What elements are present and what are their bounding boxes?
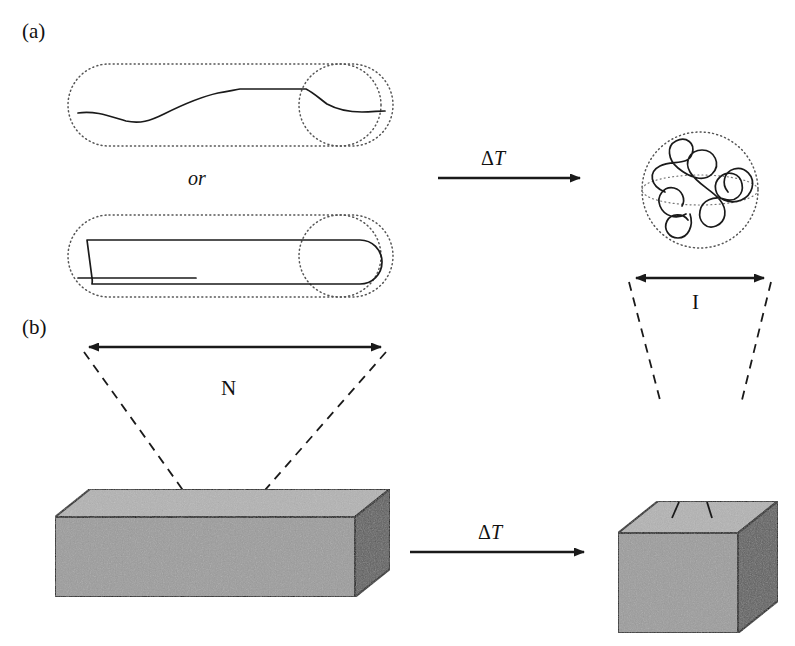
cube-front-face (618, 533, 738, 633)
panel-label-b: (b) (22, 317, 47, 338)
bar-front-face (55, 517, 355, 597)
bar-top-face (55, 489, 390, 517)
coiled-globule-sphere (642, 132, 758, 248)
dimension-label-n: N (221, 378, 236, 399)
extended-chain-capsule (68, 64, 393, 146)
or-label: or (188, 168, 206, 188)
random-coil-chain (652, 139, 752, 238)
delta-t-label-top: ΔT (481, 148, 505, 168)
extended-polymer-chain (78, 89, 385, 122)
projection-line-l-right (742, 282, 771, 400)
segment-end-circle-dotted (299, 64, 381, 146)
dimension-label-l: I (692, 292, 699, 313)
figure-canvas: (a) or ΔT I (b) N ΔT (0, 0, 795, 646)
panel-label-a: (a) (22, 21, 45, 42)
rectangular-bar-3d (55, 489, 390, 597)
delta-t-label-bottom: ΔT (478, 522, 502, 542)
cube-3d (618, 501, 778, 633)
figure-vector-layer (0, 0, 795, 646)
folded-chain-capsule (68, 215, 393, 297)
projection-line-l-left (629, 282, 660, 400)
capsule-outline-dotted (68, 64, 393, 146)
